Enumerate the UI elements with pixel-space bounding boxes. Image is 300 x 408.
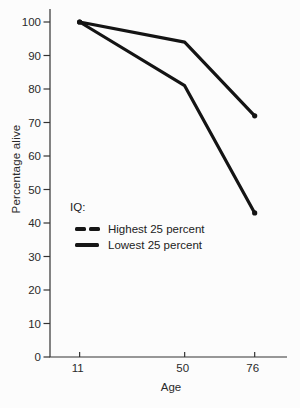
line-marker-highest-icon: [75, 227, 100, 231]
chart-axes: [50, 9, 287, 357]
legend-label-lowest: Lowest 25 percent: [108, 239, 202, 251]
y-tick-label: 70: [28, 117, 41, 129]
y-tick-label: 50: [28, 184, 41, 196]
y-tick-label: 0: [35, 351, 41, 363]
y-tick-label: 40: [28, 217, 41, 229]
legend-item-lowest: Lowest 25 percent: [69, 237, 205, 253]
series-line-1: [80, 22, 255, 213]
iq-survival-line-chart: 0102030405060708090100115076 Percentage …: [0, 0, 300, 408]
legend-label-highest: Highest 25 percent: [108, 223, 205, 235]
chart-legend: IQ: Highest 25 percent Lowest 25 percent: [69, 201, 205, 253]
x-tick-label: 76: [246, 362, 259, 374]
y-tick-label: 90: [28, 50, 41, 62]
x-axis-label: Age: [161, 381, 181, 393]
y-tick-label: 100: [22, 16, 41, 28]
x-tick-label: 50: [176, 362, 189, 374]
series-endpoint: [77, 19, 82, 24]
legend-title: IQ:: [70, 201, 205, 213]
series-endpoint: [252, 210, 257, 215]
y-axis-label: Percentage alive: [10, 125, 22, 214]
legend-item-highest: Highest 25 percent: [69, 221, 205, 237]
y-tick-label: 20: [28, 284, 41, 296]
series-endpoint: [252, 113, 257, 118]
x-tick-label: 11: [72, 362, 84, 374]
y-tick-label: 60: [28, 150, 41, 162]
y-tick-label: 10: [28, 318, 41, 330]
line-marker-lowest-icon: [75, 243, 100, 247]
y-tick-label: 80: [28, 83, 41, 95]
y-tick-label: 30: [28, 251, 41, 263]
